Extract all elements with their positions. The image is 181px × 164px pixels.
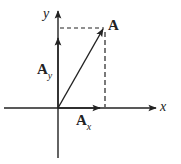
ay-label-subscript: y <box>48 70 52 81</box>
diagram-canvas <box>0 0 181 164</box>
ay-label-base: A <box>37 61 48 77</box>
ay-label: Ay <box>37 62 52 77</box>
vector-a-arrow <box>58 29 103 108</box>
vector-a-label: A <box>108 18 119 33</box>
vector-diagram: y x A Ay Ax <box>0 0 181 164</box>
x-axis-label: x <box>160 100 166 114</box>
ax-label-base: A <box>76 112 87 128</box>
ax-label-subscript: x <box>87 121 91 132</box>
y-axis-label: y <box>43 7 49 21</box>
ax-label: Ax <box>76 113 91 128</box>
